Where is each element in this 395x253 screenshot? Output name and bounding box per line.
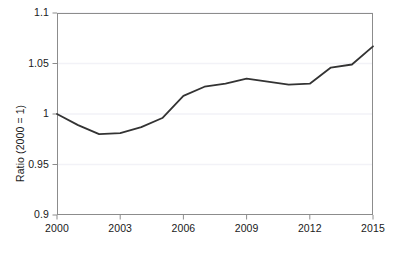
y-tick-label: 0.9 bbox=[0, 208, 49, 220]
y-tick-label: 1 bbox=[0, 107, 49, 119]
x-tick-label: 2000 bbox=[35, 222, 79, 234]
y-tick-label: 0.95 bbox=[0, 158, 49, 170]
x-tick-label: 2009 bbox=[225, 222, 269, 234]
data-series-line bbox=[57, 46, 373, 134]
x-tick-label: 2015 bbox=[351, 222, 395, 234]
y-tick-label: 1.05 bbox=[0, 57, 49, 69]
x-tick-label: 2003 bbox=[98, 222, 142, 234]
line-chart-figure: Ratio (2000 = 1) 0.90.9511.051.1 2000200… bbox=[0, 0, 395, 253]
x-tick-label: 2012 bbox=[288, 222, 332, 234]
x-axis-ticks bbox=[57, 215, 373, 220]
y-tick-label: 1.1 bbox=[0, 6, 49, 18]
x-tick-label: 2006 bbox=[161, 222, 205, 234]
chart-canvas bbox=[0, 0, 395, 253]
gridlines bbox=[57, 13, 373, 165]
